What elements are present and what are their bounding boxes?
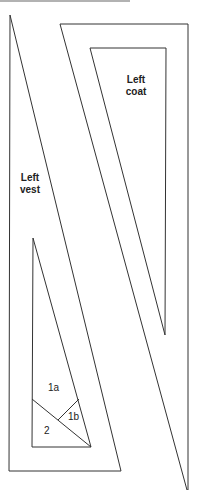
vest-label-line1: Left — [14, 172, 46, 184]
vest-label-line2: vest — [14, 184, 46, 196]
section-divider-2 — [32, 399, 91, 447]
coat-label-line1: Left — [118, 74, 154, 86]
left-vest-label: Left vest — [14, 172, 46, 196]
section-1a-label: 1a — [48, 382, 59, 394]
vest-outer-outline — [9, 15, 121, 471]
vest-inner-outline — [32, 238, 91, 447]
coat-label-line2: coat — [118, 86, 154, 98]
pattern-diagram — [0, 0, 201, 490]
section-2-label: 2 — [44, 425, 50, 437]
left-coat-label: Left coat — [118, 74, 154, 98]
section-1b-label: 1b — [68, 411, 79, 423]
